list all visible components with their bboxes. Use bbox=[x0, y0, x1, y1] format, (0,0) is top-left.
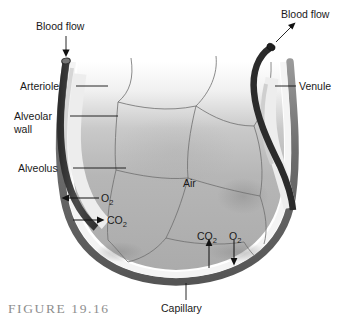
alveolus-figure: Blood flow Blood flow Arteriole Alveolar… bbox=[0, 0, 350, 322]
alveolus-text: Alveolus bbox=[18, 162, 58, 174]
blood-flow-in-text: Blood flow bbox=[36, 20, 85, 32]
arteriole-text: Arteriole bbox=[20, 80, 59, 92]
arteriole-cut-end bbox=[61, 58, 70, 65]
figure-caption: FIGURE 19.16 bbox=[8, 301, 110, 316]
alveolar-wall-text-line2: wall bbox=[13, 123, 32, 135]
alveolus-sac bbox=[60, 56, 296, 282]
capillary-text: Capillary bbox=[161, 302, 203, 314]
blood-flow-out-text: Blood flow bbox=[281, 8, 330, 20]
air-label: Air bbox=[183, 177, 196, 189]
venule-text: Venule bbox=[299, 80, 331, 92]
alveolar-wall-text-line1: Alveolar bbox=[14, 110, 52, 122]
shading-blob bbox=[217, 178, 269, 214]
